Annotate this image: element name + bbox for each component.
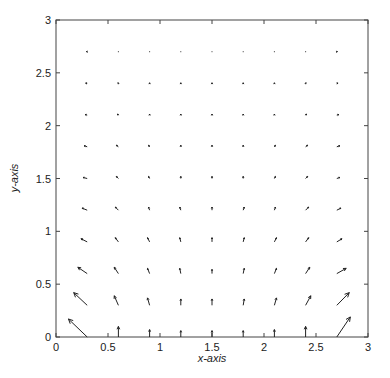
y-tick-label: 1 [45, 225, 51, 237]
x-tick-label: 3 [365, 341, 371, 353]
quiver-plot: 00.511.522.5300.511.522.53 x-axis y-axis [0, 0, 390, 378]
y-tick-label: 0 [45, 331, 51, 343]
x-axis-label: x-axis [197, 352, 227, 364]
y-tick-label: 0.5 [36, 278, 51, 290]
y-tick-label: 3 [45, 14, 51, 26]
y-tick-label: 2 [45, 120, 51, 132]
x-tick-label: 1 [157, 341, 163, 353]
x-tick-label: 0.5 [100, 341, 115, 353]
y-tick-label: 2.5 [36, 67, 51, 79]
y-tick-label: 1.5 [36, 173, 51, 185]
x-tick-label: 2 [261, 341, 267, 353]
x-tick-label: 0 [53, 341, 59, 353]
y-axis-label: y-axis [8, 163, 20, 193]
x-tick-label: 2.5 [308, 341, 323, 353]
